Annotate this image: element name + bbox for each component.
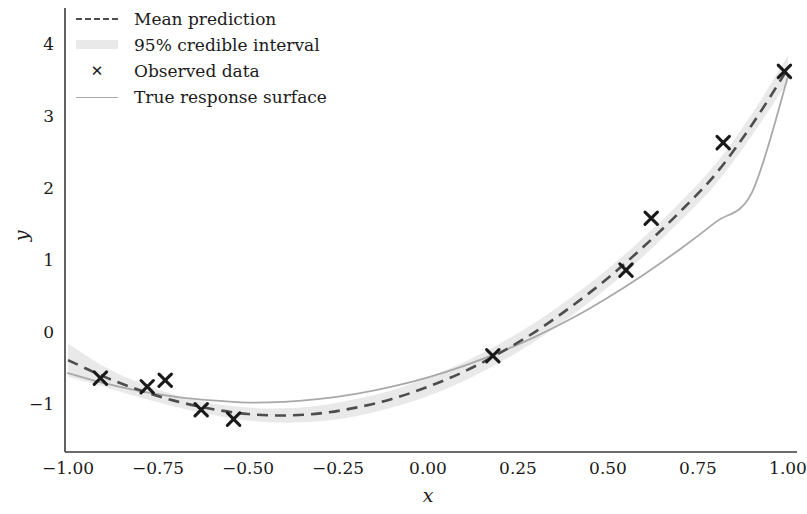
- legend-entry-mean-prediction: Mean prediction: [74, 6, 374, 32]
- y-tick-label: −1: [29, 396, 54, 413]
- credible-interval-area: [68, 56, 788, 423]
- x-marker-swatch: ✕: [74, 61, 120, 81]
- observed-data-point: [159, 374, 171, 386]
- y-tick-label: 0: [43, 324, 54, 341]
- y-tick-label: 4: [43, 36, 54, 53]
- legend-label-observed-data: Observed data: [134, 63, 260, 80]
- observed-data-point: [645, 212, 657, 224]
- y-tick-label: 2: [43, 180, 54, 197]
- solid-line-swatch: [74, 87, 120, 107]
- legend-label-true-surface: True response surface: [134, 89, 327, 106]
- legend-entry-true-surface: True response surface: [74, 84, 374, 110]
- credible-interval-band: [68, 56, 788, 423]
- y-tick-label: 3: [43, 108, 54, 125]
- x-tick-label: 0.25: [499, 460, 537, 477]
- x-tick-label: 0.50: [589, 460, 627, 477]
- mean-prediction-path: [68, 68, 788, 415]
- true-surface-path: [68, 76, 788, 402]
- legend-label-credible-interval: 95% credible interval: [134, 37, 320, 54]
- true-response-surface-line: [68, 76, 788, 402]
- x-tick-label: 0.00: [409, 460, 447, 477]
- x-tick-label: −1.00: [42, 460, 94, 477]
- chart-legend: Mean prediction 95% credible interval ✕ …: [74, 6, 374, 110]
- y-axis-title: y: [12, 231, 31, 242]
- x-tick-label: −0.25: [312, 460, 364, 477]
- x-tick-label: −0.50: [222, 460, 274, 477]
- y-tick-label: 1: [43, 252, 54, 269]
- mean-prediction-line: [68, 68, 788, 415]
- legend-entry-credible-interval: 95% credible interval: [74, 32, 374, 58]
- observed-data-point: [717, 136, 729, 148]
- x-marker-icon: ✕: [74, 61, 120, 81]
- band-swatch: [74, 35, 120, 55]
- x-axis-title: x: [423, 486, 434, 505]
- legend-label-mean-prediction: Mean prediction: [134, 11, 276, 28]
- x-tick-label: −0.75: [132, 460, 184, 477]
- dashed-line-swatch: [74, 9, 120, 29]
- x-tick-label: 0.75: [679, 460, 717, 477]
- legend-entry-observed-data: ✕ Observed data: [74, 58, 374, 84]
- x-tick-label: 1.00: [769, 460, 807, 477]
